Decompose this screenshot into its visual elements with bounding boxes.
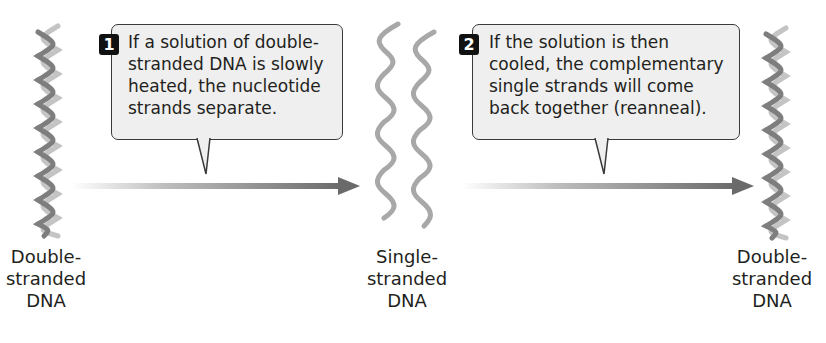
double-helix-icon — [30, 22, 66, 240]
callout-2-pointer — [594, 138, 614, 176]
step-1-line: If a solution of double- — [128, 31, 334, 53]
stage-label-middle: Single- stranded DNA — [357, 246, 457, 312]
stage-label-end: Double- stranded DNA — [722, 246, 822, 312]
arrow-cooling — [462, 176, 756, 196]
double-helix-icon — [758, 24, 794, 242]
step-2-callout: If the solution is then cooled, the comp… — [472, 24, 740, 140]
step-1-badge: 1 — [99, 34, 119, 55]
arrow-heating — [72, 176, 362, 196]
step-1-line: heated, the nucleotide — [128, 75, 334, 97]
callout-1-pointer — [196, 138, 216, 176]
single-strands-icon — [372, 20, 442, 230]
step-2-line: back together (reanneal). — [489, 97, 731, 119]
step-2-line: single strands will come — [489, 75, 731, 97]
step-1-line: stranded DNA is slowly — [128, 53, 334, 75]
step-2-line: cooled, the complementary — [489, 53, 731, 75]
step-2-line: If the solution is then — [489, 31, 731, 53]
step-2-badge: 2 — [459, 34, 479, 55]
step-1-line: strands separate. — [128, 97, 334, 119]
stage-label-start: Double- stranded DNA — [0, 246, 96, 312]
step-1-callout: If a solution of double- stranded DNA is… — [111, 24, 343, 140]
